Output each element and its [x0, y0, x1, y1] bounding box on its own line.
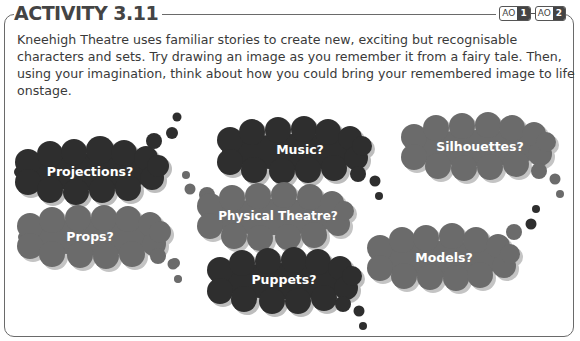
- svg-text:Silhouettes?: Silhouettes?: [436, 139, 524, 154]
- svg-text:Music?: Music?: [276, 142, 324, 157]
- thought-bubble-puppets: Puppets?: [207, 247, 367, 330]
- thought-bubble-music: Music?: [217, 116, 383, 200]
- thought-bubble-physical-theatre: Physical Theatre?: [197, 182, 357, 254]
- thought-dots-models: [526, 205, 541, 230]
- thought-bubble-projections: Projections?: [14, 113, 182, 209]
- thought-bubbles-illustration: Projections? Props?: [0, 0, 580, 341]
- svg-text:Physical Theatre?: Physical Theatre?: [218, 209, 338, 223]
- thought-bubble-models: Models?: [367, 223, 523, 294]
- svg-text:Models?: Models?: [415, 250, 472, 265]
- thought-bubble-silhouettes: Silhouettes?: [401, 112, 564, 198]
- svg-text:Props?: Props?: [66, 229, 114, 244]
- svg-text:Projections?: Projections?: [47, 164, 134, 179]
- thought-dots-puppets: [170, 258, 182, 283]
- svg-text:Puppets?: Puppets?: [251, 272, 316, 287]
- thought-bubble-props: Props?: [17, 205, 182, 283]
